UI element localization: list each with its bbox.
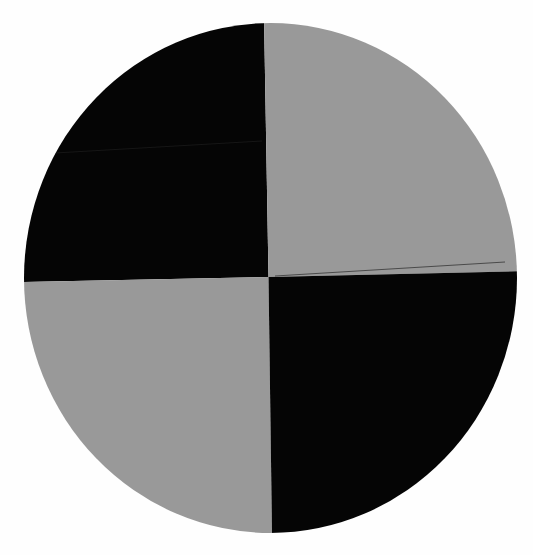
- quadrant-top-right: [264, 0, 533, 277]
- quadrant-target-graphic: [0, 0, 533, 555]
- quadrant-bottom-right: [269, 271, 533, 555]
- quadrant-bottom-left: [0, 277, 272, 555]
- calibration-target-photo: [0, 0, 533, 555]
- quadrant-top-left: [0, 0, 269, 283]
- target-disc: [0, 0, 533, 555]
